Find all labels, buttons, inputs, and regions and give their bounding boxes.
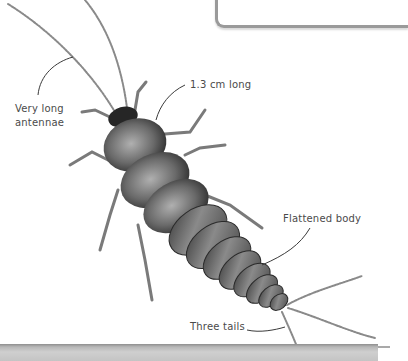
leader-length (156, 85, 185, 120)
label-antennae-line1: Very long (15, 102, 75, 116)
bottom-background-strip (0, 344, 378, 361)
label-antennae: Very long antennae (15, 102, 75, 130)
label-flattened-body: Flattened body (283, 212, 361, 226)
label-antennae-line2: antennae (15, 116, 75, 130)
leader-antennae (38, 57, 73, 95)
antennae (8, 0, 127, 112)
leader-body (262, 228, 310, 265)
label-length: 1.3 cm long (190, 78, 251, 92)
